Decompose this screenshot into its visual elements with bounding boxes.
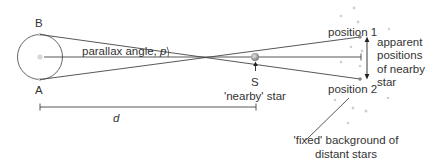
position-2-star xyxy=(358,77,362,81)
apparent-line-4: star xyxy=(377,76,425,89)
label-point-b: B xyxy=(35,17,43,30)
fixed-line-1: 'fixed' background of xyxy=(278,134,414,148)
label-fixed-background: 'fixed' background of distant stars xyxy=(278,134,414,161)
apparent-line-3: of nearby xyxy=(377,63,425,76)
parallax-symbol: p xyxy=(160,45,166,57)
label-distance-d: d xyxy=(113,112,119,125)
label-position-1: position 1 xyxy=(328,26,377,39)
label-apparent-positions: apparent positions of nearby star xyxy=(377,36,425,89)
arrow-down-head xyxy=(365,74,370,80)
nearby-star-icon xyxy=(251,53,259,61)
apparent-line-1: apparent xyxy=(377,36,425,49)
star-pointer-arrowhead xyxy=(253,62,258,67)
label-parallax-angle: parallax angle, p xyxy=(82,45,166,58)
sightline-a xyxy=(40,37,360,80)
apparent-line-2: positions xyxy=(377,49,425,62)
label-point-a: A xyxy=(35,84,43,97)
parallax-angle-text: parallax angle, xyxy=(82,45,160,57)
label-position-2: position 2 xyxy=(328,83,377,96)
label-nearby-star: 'nearby' star xyxy=(224,90,286,103)
label-star-s: S xyxy=(251,76,259,89)
sun-icon xyxy=(37,54,42,59)
fixed-line-2: distant stars xyxy=(278,148,414,162)
